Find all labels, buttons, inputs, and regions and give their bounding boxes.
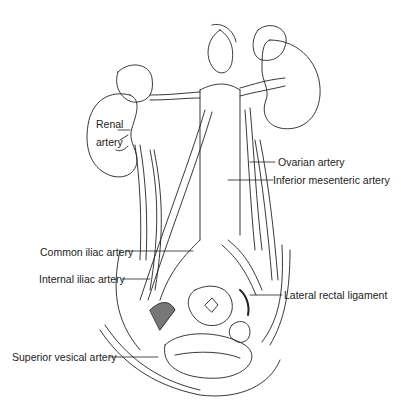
pelvic-organs — [164, 286, 251, 378]
descending-vessels — [135, 108, 278, 300]
label-lateral-rectal-ligament: Lateral rectal ligament — [284, 289, 387, 301]
anatomy-diagram: Renal artery Ovarian artery Inferior mes… — [0, 0, 401, 415]
label-common-iliac-artery: Common iliac artery — [40, 246, 133, 258]
pelvic-wall — [100, 245, 290, 396]
label-renal-line1: Renal — [96, 118, 123, 130]
label-internal-iliac-artery: Internal iliac artery — [39, 273, 125, 285]
label-superior-vesical-artery: Superior vesical artery — [12, 351, 116, 363]
right-kidney — [253, 26, 320, 129]
label-renal-artery: Renal artery — [96, 115, 136, 151]
label-renal-line2: artery — [96, 136, 123, 148]
label-ovarian-artery: Ovarian artery — [278, 156, 345, 168]
label-inferior-mesenteric-artery: Inferior mesenteric artery — [273, 174, 390, 186]
